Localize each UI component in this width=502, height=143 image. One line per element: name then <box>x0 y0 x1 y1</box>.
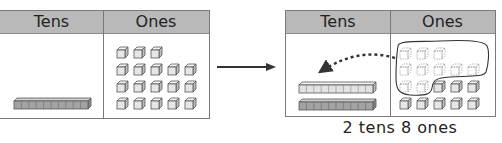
regroup-arrow-icon <box>320 55 395 72</box>
after-tens-rods <box>299 82 376 110</box>
right-arrow-icon <box>217 63 276 71</box>
before-ones-cubes <box>117 47 196 109</box>
before-tens-rod <box>14 98 91 109</box>
result-caption: 2 tens 8 ones <box>330 118 470 137</box>
